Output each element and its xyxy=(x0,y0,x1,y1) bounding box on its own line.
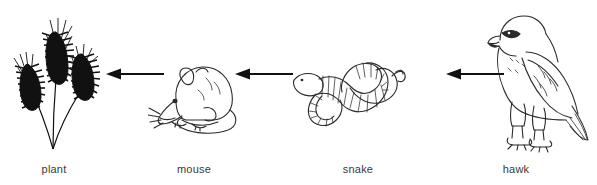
hawk-icon xyxy=(482,6,594,154)
wheat-plant-icon xyxy=(6,12,102,152)
snake-icon xyxy=(292,48,408,136)
label-snake: snake xyxy=(312,163,404,175)
mouse-icon xyxy=(148,56,240,138)
label-plant: plant xyxy=(8,163,100,175)
arrow-snake-to-mouse xyxy=(235,64,293,84)
label-mouse: mouse xyxy=(148,163,240,175)
food-chain-diagram: plant xyxy=(0,0,597,185)
label-hawk: hawk xyxy=(470,163,562,175)
